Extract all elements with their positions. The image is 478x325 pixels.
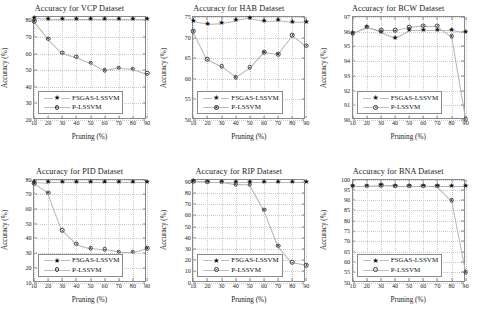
data-point-star: ★ bbox=[73, 179, 80, 186]
x-tick-label: 80 bbox=[289, 118, 295, 126]
y-tick-label: 60 bbox=[185, 212, 194, 218]
x-tick-mark bbox=[207, 116, 208, 119]
x-tick-label: 80 bbox=[130, 281, 136, 289]
legend-item: ★FSGAS-LSSVM bbox=[361, 93, 438, 103]
x-tick-label: 70 bbox=[434, 118, 440, 126]
x-tick-label: 80 bbox=[448, 118, 454, 126]
legend-item: ★FSGAS-LSSVM bbox=[42, 93, 119, 103]
data-point-circle bbox=[262, 207, 267, 212]
data-point-circle bbox=[379, 28, 384, 33]
x-tick-label: 30 bbox=[378, 281, 384, 289]
legend-item: ★FSGAS-LSSVM bbox=[361, 256, 438, 266]
x-axis-label: Pruning (%) bbox=[33, 296, 146, 304]
x-tick-mark bbox=[352, 278, 353, 281]
legend-item: P-LSSVM bbox=[201, 103, 278, 113]
data-point-star: ★ bbox=[87, 179, 94, 186]
chart-title: Accuracy for VCP Dataset bbox=[0, 4, 159, 13]
x-tick-mark bbox=[380, 17, 381, 20]
star-icon: ★ bbox=[361, 257, 391, 264]
gridline-horizontal bbox=[353, 46, 464, 47]
y-tick-mark bbox=[461, 46, 464, 47]
x-tick-mark bbox=[366, 116, 367, 119]
y-tick-mark bbox=[461, 210, 464, 211]
x-tick-label: 10 bbox=[350, 118, 356, 126]
y-tick-mark bbox=[143, 53, 146, 54]
data-point-circle bbox=[463, 117, 468, 122]
y-tick-label: 95 bbox=[344, 43, 353, 49]
legend-item: P-LSSVM bbox=[42, 103, 119, 113]
gridline-vertical bbox=[34, 17, 35, 118]
legend: ★FSGAS-LSSVMP-LSSVM bbox=[38, 91, 123, 114]
x-tick-label: 30 bbox=[219, 281, 225, 289]
y-axis-label: Accuracy (%) bbox=[318, 179, 330, 282]
y-tick-mark bbox=[302, 204, 305, 205]
gridline-horizontal bbox=[193, 238, 304, 239]
y-tick-mark bbox=[302, 58, 305, 59]
y-tick-mark bbox=[302, 271, 305, 272]
x-tick-label: 70 bbox=[275, 281, 281, 289]
y-tick-label: 80 bbox=[344, 218, 353, 224]
data-point-circle bbox=[290, 33, 295, 38]
y-axis-label-text: Accuracy (%) bbox=[320, 47, 328, 87]
x-tick-mark bbox=[48, 116, 49, 119]
data-point-star: ★ bbox=[261, 178, 268, 185]
data-point-star: ★ bbox=[392, 34, 399, 41]
data-point-circle bbox=[290, 260, 295, 265]
data-point-circle bbox=[60, 50, 65, 55]
legend-label: P-LSSVM bbox=[391, 103, 421, 111]
y-tick-mark bbox=[302, 226, 305, 227]
data-point-star: ★ bbox=[289, 178, 296, 185]
x-tick-label: 80 bbox=[289, 281, 295, 289]
y-tick-label: 65 bbox=[344, 249, 353, 255]
x-tick-label: 30 bbox=[219, 118, 225, 126]
data-point-star: ★ bbox=[59, 179, 66, 186]
data-point-circle bbox=[276, 52, 281, 57]
data-point-star: ★ bbox=[115, 179, 122, 186]
gridline-vertical bbox=[452, 180, 453, 281]
x-tick-mark bbox=[132, 278, 133, 281]
x-tick-mark bbox=[278, 278, 279, 281]
x-tick-label: 20 bbox=[364, 281, 370, 289]
legend-label: P-LSSVM bbox=[391, 266, 421, 274]
data-point-star: ★ bbox=[130, 179, 137, 186]
x-tick-label: 10 bbox=[31, 118, 37, 126]
y-axis-label-text: Accuracy (%) bbox=[1, 47, 9, 87]
x-tick-mark bbox=[409, 278, 410, 281]
x-tick-label: 60 bbox=[420, 281, 426, 289]
circle-dot-icon bbox=[42, 267, 72, 272]
series-line bbox=[192, 31, 207, 60]
chart-title: Accuracy for PID Dataset bbox=[0, 167, 159, 176]
y-axis-label: Accuracy (%) bbox=[318, 16, 330, 119]
x-tick-mark bbox=[395, 116, 396, 119]
x-axis-label: Pruning (%) bbox=[352, 296, 465, 304]
x-tick-mark bbox=[409, 17, 410, 20]
y-tick-mark bbox=[143, 86, 146, 87]
data-point-star: ★ bbox=[462, 182, 469, 189]
y-tick-mark bbox=[302, 260, 305, 261]
x-tick-mark bbox=[437, 17, 438, 20]
plot-area: 1020304050607080102030405060708090★★★★★★… bbox=[33, 179, 146, 282]
x-tick-mark bbox=[147, 116, 148, 119]
data-point-circle bbox=[463, 270, 468, 275]
legend: ★FSGAS-LSSVMP-LSSVM bbox=[197, 91, 282, 114]
x-tick-mark bbox=[104, 278, 105, 281]
x-tick-label: 70 bbox=[116, 118, 122, 126]
data-point-circle bbox=[32, 19, 37, 24]
chart-title: Accuracy for BCW Dataset bbox=[319, 4, 478, 13]
y-tick-label: 70 bbox=[185, 201, 194, 207]
data-point-circle bbox=[219, 179, 224, 184]
y-tick-label: 40 bbox=[185, 235, 194, 241]
data-point-circle bbox=[74, 241, 79, 246]
y-tick-label: 60 bbox=[344, 259, 353, 265]
x-tick-label: 90 bbox=[144, 281, 150, 289]
gridline-horizontal bbox=[193, 193, 304, 194]
data-point-circle bbox=[233, 75, 238, 80]
star-icon: ★ bbox=[42, 94, 72, 101]
y-axis-label: Accuracy (%) bbox=[158, 16, 170, 119]
x-tick-mark bbox=[132, 116, 133, 119]
x-tick-mark bbox=[366, 278, 367, 281]
legend-label: FSGAS-LSSVM bbox=[72, 94, 119, 102]
data-point-circle bbox=[248, 182, 253, 187]
x-tick-label: 60 bbox=[261, 281, 267, 289]
gridline-horizontal bbox=[34, 209, 145, 210]
